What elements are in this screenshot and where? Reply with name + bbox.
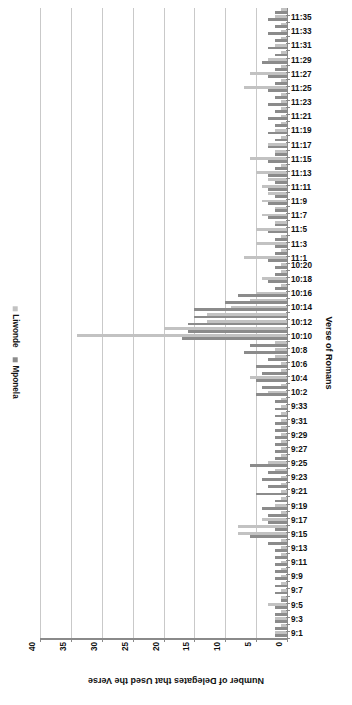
- bar-mponela: [275, 54, 287, 57]
- bar-row: [40, 511, 287, 518]
- value-tick-label-20: 20: [152, 642, 176, 651]
- bar-mponela: [275, 209, 287, 212]
- category-tick: [286, 411, 290, 412]
- category-tick: [286, 376, 290, 377]
- category-tick: [286, 603, 290, 604]
- bar-mponela: [275, 613, 287, 616]
- category-label: 11:31: [291, 42, 312, 50]
- category-tick: [286, 610, 290, 611]
- category-axis-title-text: Verse of Romans: [324, 316, 334, 389]
- bar-row: [40, 475, 287, 482]
- category-label: 11:29: [291, 57, 312, 65]
- bar-row: [40, 624, 287, 631]
- bar-mponela: [268, 188, 287, 191]
- value-tick-label-40: 40: [28, 642, 52, 651]
- category-label: 11:23: [291, 99, 312, 107]
- bar-row: [40, 376, 287, 383]
- bar-row: [40, 199, 287, 206]
- category-label: 10:14: [291, 304, 312, 312]
- value-axis-title-text: Number of Delegates that Used the Verse: [88, 676, 264, 686]
- chart-root: Liwonde Mponela 9:19:39:59:79:99:119:139…: [0, 0, 352, 705]
- category-label: 10:8: [291, 347, 307, 355]
- bar-row: [40, 617, 287, 624]
- category-tick: [286, 383, 290, 384]
- bar-row: [40, 440, 287, 447]
- category-label: 11:21: [291, 113, 312, 121]
- category-tick: [286, 468, 290, 469]
- category-tick: [286, 525, 290, 526]
- bar-mponela: [268, 259, 287, 262]
- category-tick: [286, 355, 290, 356]
- category-label: 9:3: [291, 616, 303, 624]
- category-label: 11:1: [291, 255, 307, 263]
- bar-mponela: [275, 25, 287, 28]
- bar-mponela: [275, 124, 287, 127]
- category-tick: [286, 560, 290, 561]
- bar-mponela: [268, 132, 287, 135]
- category-tick: [286, 369, 290, 370]
- bar-row: [40, 263, 287, 270]
- bar-row: [40, 291, 287, 298]
- bar-row: [40, 128, 287, 135]
- bar-mponela: [268, 47, 287, 50]
- category-tick: [286, 567, 290, 568]
- bar-mponela: [268, 521, 287, 524]
- bar-mponela: [268, 117, 287, 120]
- bar-mponela: [268, 146, 287, 149]
- category-axis-title: Verse of Romans: [318, 0, 340, 705]
- bar-mponela: [275, 549, 287, 552]
- category-label: 9:13: [291, 545, 307, 553]
- value-tick-label-10: 10: [213, 642, 237, 651]
- bar-row: [40, 58, 287, 65]
- chart-legend: Liwonde Mponela: [2, 0, 28, 705]
- category-label: 9:25: [291, 460, 307, 468]
- gridline-0: [287, 8, 288, 638]
- bar-mponela: [268, 231, 287, 234]
- bar-mponela: [275, 606, 287, 609]
- bar-row: [40, 298, 287, 305]
- bar-mponela: [275, 153, 287, 156]
- category-tick: [286, 22, 290, 23]
- bar-row: [40, 22, 287, 29]
- category-tick: [286, 419, 290, 420]
- category-tick: [286, 192, 290, 193]
- value-tick-label-15: 15: [182, 642, 206, 651]
- bar-mponela: [275, 563, 287, 566]
- category-tick: [286, 624, 290, 625]
- bar-row: [40, 171, 287, 178]
- category-tick: [286, 249, 290, 250]
- bar-row: [40, 50, 287, 57]
- bar-mponela: [250, 464, 287, 467]
- category-label: 9:7: [291, 587, 303, 595]
- category-label: 11:17: [291, 142, 312, 150]
- bar-row: [40, 468, 287, 475]
- bar-mponela: [275, 252, 287, 255]
- bar-row: [40, 525, 287, 532]
- bar-row: [40, 121, 287, 128]
- bar-row: [40, 334, 287, 341]
- category-tick: [286, 270, 290, 271]
- bar-row: [40, 227, 287, 234]
- category-label: 9:5: [291, 602, 303, 610]
- bar-mponela: [268, 216, 287, 219]
- bar-row: [40, 553, 287, 560]
- category-tick: [286, 121, 290, 122]
- category-label: 10:4: [291, 375, 307, 383]
- category-label: 11:35: [291, 14, 312, 22]
- bar-mponela: [268, 202, 287, 205]
- category-tick: [286, 327, 290, 328]
- bar-mponela: [275, 68, 287, 71]
- bar-mponela: [275, 436, 287, 439]
- category-tick: [286, 440, 290, 441]
- category-tick: [286, 142, 290, 143]
- category-tick: [286, 588, 290, 589]
- bar-row: [40, 270, 287, 277]
- bar-mponela: [256, 365, 287, 368]
- category-label: 10:20: [291, 262, 312, 270]
- bar-mponela: [268, 75, 287, 78]
- bar-row: [40, 341, 287, 348]
- bar-row: [40, 86, 287, 93]
- category-label: 9:33: [291, 403, 307, 411]
- bar-row: [40, 383, 287, 390]
- legend-label-mponela: Mponela: [11, 365, 20, 398]
